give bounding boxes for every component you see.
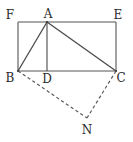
point-label-F: F — [3, 9, 17, 21]
point-label-N: N — [80, 124, 94, 136]
vertex-dot-A — [46, 21, 48, 23]
point-label-B: B — [3, 72, 17, 84]
point-label-A: A — [41, 8, 55, 20]
vertex-dot-B — [17, 70, 19, 72]
point-label-C: C — [114, 72, 128, 84]
dashed-segments — [18, 71, 116, 118]
geometry-figure: F A E B D C N — [0, 0, 133, 142]
segment-AC-line — [47, 22, 116, 71]
triangle-ABC — [18, 22, 116, 71]
point-label-E: E — [111, 9, 125, 21]
segment-CN-line — [87, 71, 116, 118]
segment-AB-line — [18, 22, 47, 71]
point-label-D: D — [40, 73, 54, 85]
